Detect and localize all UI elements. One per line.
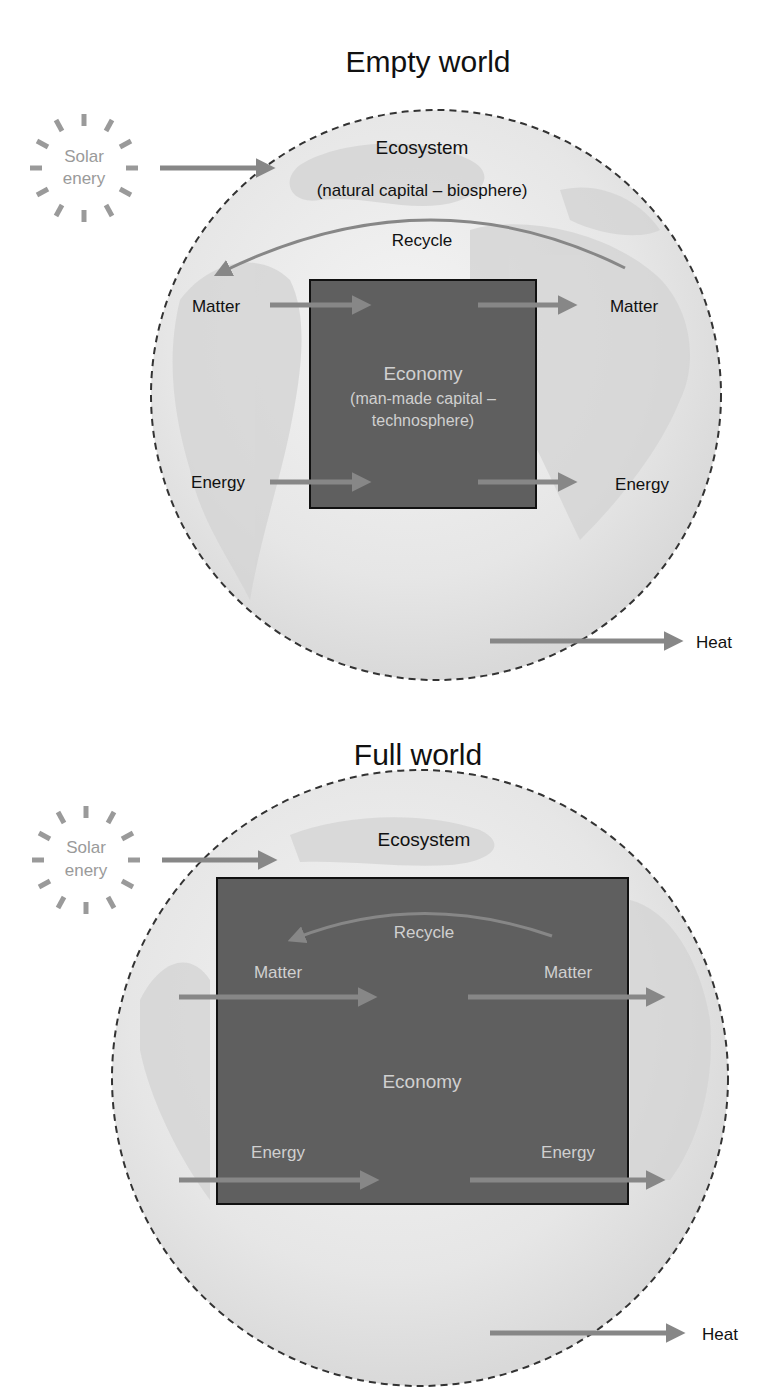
full-world-title: Full world — [354, 738, 482, 771]
economy-label: Economy — [383, 363, 463, 384]
energy-in-label: Energy — [251, 1143, 305, 1162]
ecosystem-label: Ecosystem — [378, 829, 471, 850]
sun-icon — [32, 806, 140, 914]
solar-label-line2: enery — [65, 861, 108, 880]
energy-out-label: Energy — [615, 475, 669, 494]
matter-out-label: Matter — [610, 297, 659, 316]
solar-label-line1: Solar — [66, 838, 106, 857]
solar-label-line2: enery — [63, 169, 106, 188]
empty-world-panel: Empty world Solar enery Ecos — [30, 45, 732, 680]
heat-label: Heat — [696, 633, 732, 652]
ecosystem-sublabel: (natural capital – biosphere) — [317, 181, 528, 200]
matter-in-label: Matter — [192, 297, 241, 316]
heat-label: Heat — [702, 1325, 738, 1344]
energy-in-label: Energy — [191, 473, 245, 492]
energy-out-label: Energy — [541, 1143, 595, 1162]
matter-in-label: Matter — [254, 963, 303, 982]
economy-sublabel-2: technosphere) — [372, 412, 474, 429]
full-world-panel: Full world Solar enery Ecosystem — [32, 738, 738, 1386]
economy-label: Economy — [382, 1071, 462, 1092]
sun-icon — [30, 114, 138, 222]
empty-world-title: Empty world — [345, 45, 510, 78]
recycle-label: Recycle — [392, 231, 452, 250]
economy-sublabel-1: (man-made capital – — [350, 390, 496, 407]
solar-label-line1: Solar — [64, 147, 104, 166]
matter-out-label: Matter — [544, 963, 593, 982]
recycle-label: Recycle — [394, 923, 454, 942]
diagram-canvas: Empty world Solar enery Ecos — [0, 0, 782, 1397]
ecosystem-label: Ecosystem — [376, 137, 469, 158]
